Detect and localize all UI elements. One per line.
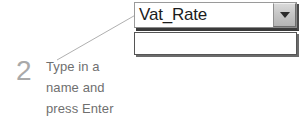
callout-line-3: press Enter xyxy=(46,98,156,119)
screenshot-root: Vat_Rate 2 Type in a name and press Ente… xyxy=(0,0,305,123)
name-box-dropdown-button[interactable] xyxy=(273,3,296,27)
step-number: 2 xyxy=(16,57,32,85)
name-box-drop-shadow xyxy=(136,28,299,31)
name-box-drop-shadow-right xyxy=(297,4,299,30)
name-box-input[interactable]: Vat_Rate xyxy=(135,3,273,27)
name-box[interactable]: Vat_Rate xyxy=(134,2,297,28)
callout-line-2: name and xyxy=(46,77,156,98)
callout-text: Type in a name and press Enter xyxy=(46,56,156,119)
callout-line-1: Type in a xyxy=(46,56,156,77)
chevron-down-icon xyxy=(280,12,290,18)
dropdown-list-shadow-right xyxy=(297,34,299,57)
dropdown-list[interactable] xyxy=(134,32,297,55)
dropdown-list-shadow-bottom xyxy=(136,55,299,57)
